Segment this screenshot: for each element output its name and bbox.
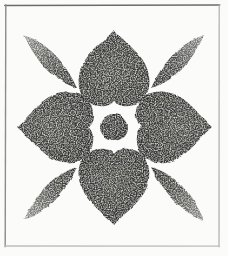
frame-top-rule xyxy=(5,5,220,6)
rosette-motif xyxy=(17,30,212,225)
frame-left-rule xyxy=(5,5,6,247)
center-disc xyxy=(100,114,128,140)
rosette-rubbing-artwork xyxy=(0,0,228,256)
artwork-canvas-container: Charcoal rubbing of a symmetrical eight-… xyxy=(0,0,228,256)
